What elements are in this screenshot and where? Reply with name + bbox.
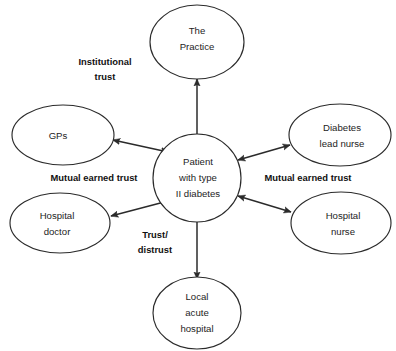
- diagram-canvas: The Practice GPs Hospital doctor Diabete…: [0, 0, 396, 351]
- diabetes-lead-nurse-label-line2: lead nurse: [320, 138, 365, 149]
- patient-label-line3: II diabetes: [176, 188, 220, 199]
- trust-distrust-line1: Trust/: [142, 229, 168, 240]
- hospital-doctor-ellipse[interactable]: [10, 193, 110, 253]
- edge-line-patient-gps: [113, 140, 168, 152]
- edge-line-patient-diabetes-lead-nurse: [238, 145, 290, 160]
- patient-label-line1: Patient: [183, 156, 213, 167]
- hospital-nurse-ellipse[interactable]: [291, 192, 391, 254]
- local-acute-hospital-label-line1: Local: [186, 291, 209, 302]
- trust-distrust-line2: distrust: [138, 244, 172, 255]
- the-practice-label-line2: Practice: [180, 41, 215, 52]
- edge-patient-to-hospital-doctor: [111, 201, 168, 216]
- edge-patient-to-hospital-nurse: [238, 196, 291, 212]
- hospital-doctor-label-line2: doctor: [44, 226, 71, 237]
- mutual-earned-trust-left-line1: Mutual earned trust: [51, 172, 138, 183]
- edge-patient-to-gps: [113, 140, 168, 152]
- node-patient[interactable]: Patient with type II diabetes: [153, 134, 241, 222]
- edge-line-patient-hospital-nurse: [238, 196, 291, 212]
- hospital-doctor-label-line1: Hospital: [40, 210, 75, 221]
- edge-label-institutional-trust: Institutional trust: [78, 56, 131, 82]
- diabetes-lead-nurse-ellipse[interactable]: [289, 104, 391, 166]
- local-acute-hospital-label-line2: acute: [185, 307, 208, 318]
- edge-line-patient-hospital-doctor: [111, 201, 168, 216]
- institutional-trust-line1: Institutional: [78, 56, 131, 67]
- node-gps[interactable]: GPs: [12, 105, 114, 165]
- mutual-earned-trust-right-line1: Mutual earned trust: [265, 172, 352, 183]
- hospital-nurse-label-line2: nurse: [331, 226, 355, 237]
- patient-label-line2: with type: [178, 172, 217, 183]
- node-local-acute-hospital[interactable]: Local acute hospital: [153, 277, 241, 349]
- node-diabetes-lead-nurse[interactable]: Diabetes lead nurse: [289, 104, 391, 166]
- edge-label-mutual-earned-trust-right: Mutual earned trust: [265, 172, 352, 183]
- node-hospital-doctor[interactable]: Hospital doctor: [10, 193, 110, 253]
- trust-relationship-diagram: The Practice GPs Hospital doctor Diabete…: [0, 0, 396, 351]
- gps-label-line1: GPs: [49, 130, 68, 141]
- edge-label-trust-distrust: Trust/ distrust: [138, 229, 172, 255]
- diabetes-lead-nurse-label-line1: Diabetes: [323, 122, 361, 133]
- institutional-trust-line2: trust: [95, 71, 116, 82]
- hospital-nurse-label-line1: Hospital: [326, 210, 361, 221]
- node-hospital-nurse[interactable]: Hospital nurse: [291, 192, 391, 254]
- the-practice-label-line1: The: [189, 25, 206, 36]
- edge-patient-to-diabetes-lead-nurse: [238, 145, 290, 160]
- edge-label-mutual-earned-trust-left: Mutual earned trust: [51, 172, 138, 183]
- local-acute-hospital-label-line3: hospital: [180, 323, 213, 334]
- node-the-practice[interactable]: The Practice: [150, 5, 244, 79]
